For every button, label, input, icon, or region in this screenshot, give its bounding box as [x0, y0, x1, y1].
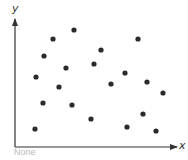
data-point [50, 36, 55, 41]
data-point [124, 124, 129, 129]
data-point [144, 79, 149, 84]
data-point [69, 102, 74, 107]
data-point [56, 84, 61, 89]
y-axis-label: y [12, 3, 19, 14]
data-point [41, 53, 46, 58]
data-point [153, 128, 158, 133]
x-axis-label: x [179, 140, 186, 151]
data-point [140, 111, 145, 116]
data-point [108, 81, 113, 86]
data-point [98, 47, 103, 52]
data-point [33, 74, 38, 79]
data-point [160, 90, 165, 95]
data-point [135, 36, 140, 41]
data-point [71, 27, 76, 32]
data-point [40, 100, 45, 105]
data-point [63, 65, 68, 70]
scatter-plot [0, 0, 188, 160]
data-points [32, 27, 165, 133]
chart-caption: None [14, 148, 36, 157]
data-point [32, 126, 37, 131]
data-point [88, 116, 93, 121]
data-point [122, 70, 127, 75]
data-point [91, 61, 96, 66]
